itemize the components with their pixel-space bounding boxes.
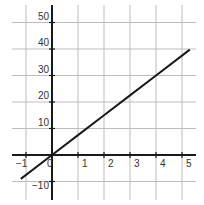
y-tick-label: 40 bbox=[38, 37, 50, 48]
y-tick-label: 10 bbox=[38, 117, 50, 128]
x-tick-label: 3 bbox=[134, 158, 140, 169]
x-tick-label: 4 bbox=[160, 158, 166, 169]
x-tick-label: 0 bbox=[47, 158, 53, 169]
y-tick-label: −10 bbox=[32, 180, 49, 191]
line-chart: −1012345−101020304050 bbox=[0, 0, 204, 205]
x-tick-label: 1 bbox=[82, 158, 88, 169]
y-tick-label: 20 bbox=[38, 90, 50, 101]
x-tick-label: 2 bbox=[108, 158, 114, 169]
x-tick-label: −1 bbox=[16, 158, 28, 169]
y-tick-label: 30 bbox=[38, 64, 50, 75]
grid-lines bbox=[12, 5, 196, 200]
y-tick-label: 50 bbox=[38, 11, 50, 22]
x-tick-label: 5 bbox=[186, 158, 192, 169]
